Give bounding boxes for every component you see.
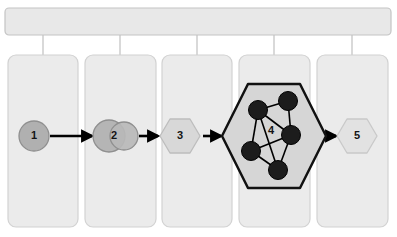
stage-2-label: 2 [111, 129, 117, 141]
connector-lines [43, 35, 352, 55]
node-lower-left[interactable] [242, 142, 261, 161]
top-container-bar [5, 8, 391, 35]
diagram-canvas: 1235 4 [0, 0, 397, 237]
stage-5-label: 5 [354, 129, 360, 141]
stage-1[interactable]: 1 [19, 121, 49, 151]
stage-4-label: 4 [268, 124, 275, 136]
node-upper-right[interactable] [279, 92, 298, 111]
stage-3-label: 3 [177, 129, 183, 141]
node-middle-right[interactable] [282, 126, 301, 145]
top-container-bar [5, 8, 391, 35]
node-bottom-center[interactable] [269, 161, 288, 180]
stage-1-label: 1 [31, 129, 37, 141]
node-upper-left[interactable] [249, 101, 268, 120]
pipeline-diagram: 1235 4 [0, 0, 397, 237]
stage-2[interactable]: 2 [93, 120, 138, 152]
swimlane-columns [8, 55, 388, 227]
